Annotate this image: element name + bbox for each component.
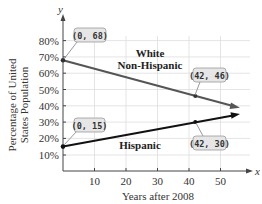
chart: y x 10 20 30 40 50 10% 20% 30% 40% 50% 6… xyxy=(0,0,262,204)
svg-text:States Population: States Population xyxy=(18,66,30,143)
svg-text:60%: 60% xyxy=(39,67,59,79)
x-axis-title: Years after 2008 xyxy=(122,190,195,202)
svg-text:30: 30 xyxy=(152,175,164,187)
arrow-icon xyxy=(231,112,241,119)
svg-text:10%: 10% xyxy=(39,149,59,161)
svg-text:(42, 30): (42, 30) xyxy=(189,139,230,149)
svg-text:Percentage of United: Percentage of United xyxy=(6,58,18,151)
svg-text:40: 40 xyxy=(184,175,196,187)
series-label-white: White xyxy=(136,47,165,59)
y-axis-arrow-icon xyxy=(61,14,66,21)
svg-text:(0, 15): (0, 15) xyxy=(72,121,108,131)
series-label-hispanic: Hispanic xyxy=(119,139,161,151)
y-tick-labels: 10% 20% 30% 40% 50% 60% 70% 80% xyxy=(39,35,59,161)
svg-text:70%: 70% xyxy=(39,51,59,63)
svg-text:20: 20 xyxy=(121,175,133,187)
svg-text:50: 50 xyxy=(215,175,227,187)
callout-0-68: (0, 68) xyxy=(64,28,108,59)
y-axis-title: Percentage of United States Population xyxy=(6,58,30,151)
x-tick-labels: 10 20 30 40 50 xyxy=(89,175,227,187)
svg-text:30%: 30% xyxy=(39,116,59,128)
svg-text:40%: 40% xyxy=(39,100,59,112)
svg-text:(42, 46): (42, 46) xyxy=(189,71,230,81)
callout-42-46: (42, 46) xyxy=(189,68,230,95)
svg-text:(0, 68): (0, 68) xyxy=(72,31,108,41)
svg-text:10: 10 xyxy=(89,175,101,187)
callout-42-30: (42, 30) xyxy=(189,123,230,150)
x-axis-symbol: x xyxy=(254,165,260,177)
svg-text:20%: 20% xyxy=(39,132,59,144)
svg-text:50%: 50% xyxy=(39,84,59,96)
series-label-non-hispanic: Non-Hispanic xyxy=(118,59,183,71)
svg-text:80%: 80% xyxy=(39,35,59,47)
x-axis-arrow-icon xyxy=(246,169,253,174)
y-axis-symbol: y xyxy=(57,3,63,15)
